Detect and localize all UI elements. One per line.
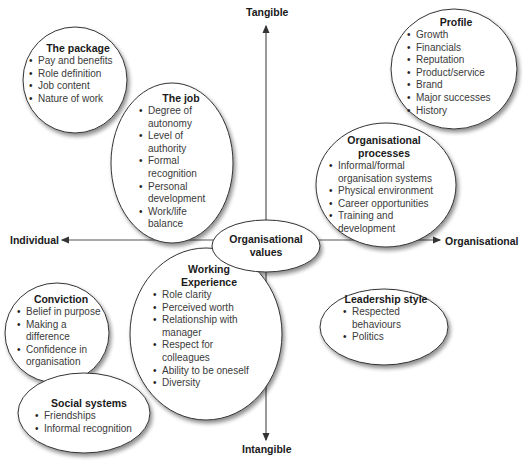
bubble-list: Respected behaviours Politics xyxy=(338,306,434,344)
bubble-title: The job xyxy=(138,92,214,105)
bubble-list: Growth Financials Reputation Product/ser… xyxy=(406,29,506,117)
list-item: Ability to be oneself xyxy=(152,365,252,378)
axis-label-tangible: Tangible xyxy=(246,6,288,18)
bubble-title-line-2: processes xyxy=(328,147,440,160)
list-item: Level of authority xyxy=(138,130,214,155)
axis-label-organisational: Organisational xyxy=(445,235,519,247)
bubble-the-package: The package Pay and benefits Role defini… xyxy=(28,42,128,105)
bubble-list: Pay and benefits Role definition Job con… xyxy=(28,55,128,105)
list-item: Informal/formal organisation systems xyxy=(328,160,440,185)
list-item: Product/service xyxy=(406,67,506,80)
list-item: Pay and benefits xyxy=(28,55,128,68)
bubble-title: Leadership style xyxy=(338,293,434,306)
list-item: Reputation xyxy=(406,54,506,67)
bubble-leadership-style: Leadership style Respected behaviours Po… xyxy=(338,293,434,344)
bubble-title-line-2: Experience xyxy=(152,276,252,289)
list-item: Confidence in organisation xyxy=(16,344,106,369)
list-item: Career opportunities xyxy=(328,198,440,211)
list-item: Degree of autonomy xyxy=(138,105,214,130)
list-item: Belief in purpose xyxy=(16,306,106,319)
list-item: Personal development xyxy=(138,181,214,206)
list-item: Politics xyxy=(342,331,434,344)
bubble-social-systems: Social systems Friendships Informal reco… xyxy=(34,397,144,435)
bubble-list: Degree of autonomy Level of authority Fo… xyxy=(138,105,214,231)
bubble-title: Social systems xyxy=(34,397,144,410)
list-item: Formal recognition xyxy=(138,155,214,180)
center-line-1: Organisational xyxy=(212,233,320,246)
axis-label-intangible: Intangible xyxy=(242,443,292,455)
bubble-list: Friendships Informal recognition xyxy=(34,410,144,435)
list-item: History xyxy=(406,105,506,118)
bubble-the-job: The job Degree of autonomy Level of auth… xyxy=(138,92,214,231)
bubble-organisational-processes: Organisational processes Informal/formal… xyxy=(328,134,440,236)
list-item: Respected behaviours xyxy=(342,306,414,331)
axis-label-individual: Individual xyxy=(10,234,59,246)
list-item: Growth xyxy=(406,29,506,42)
bubble-list: Role clarity Perceived worth Relationshi… xyxy=(152,289,252,390)
list-item: Major successes xyxy=(406,92,506,105)
bubble-title: Profile xyxy=(406,16,506,29)
center-line-2: values xyxy=(212,246,320,259)
bubble-profile: Profile Growth Financials Reputation Pro… xyxy=(406,16,506,117)
bubble-working-experience: Working Experience Role clarity Perceive… xyxy=(152,263,252,390)
list-item: Job content xyxy=(28,80,128,93)
bubble-list: Informal/formal organisation systems Phy… xyxy=(328,160,440,236)
list-item: Role definition xyxy=(28,68,128,81)
list-item: Informal recognition xyxy=(34,423,144,436)
list-item: Brand xyxy=(406,79,506,92)
list-item: Relationship with manager xyxy=(152,314,252,339)
list-item: Role clarity xyxy=(152,289,252,302)
bubble-list: Belief in purpose Making a difference Co… xyxy=(16,306,106,369)
list-item: Work/life balance xyxy=(138,206,214,231)
bubble-title-line-1: Organisational xyxy=(328,134,440,147)
list-item: Respect for colleagues xyxy=(152,339,252,364)
bubble-title-line-1: Working xyxy=(152,263,252,276)
bubble-conviction: Conviction Belief in purpose Making a di… xyxy=(16,293,106,369)
list-item: Training and development xyxy=(328,210,440,235)
list-item: Physical environment xyxy=(328,185,440,198)
list-item: Perceived worth xyxy=(152,302,252,315)
list-item: Nature of work xyxy=(28,93,128,106)
center-values-label: Organisational values xyxy=(212,233,320,259)
list-item: Friendships xyxy=(34,410,144,423)
bubble-title: The package xyxy=(28,42,128,55)
list-item: Making a difference xyxy=(16,319,106,344)
list-item: Financials xyxy=(406,42,506,55)
bubble-title: Conviction xyxy=(16,293,106,306)
list-item: Diversity xyxy=(152,377,252,390)
